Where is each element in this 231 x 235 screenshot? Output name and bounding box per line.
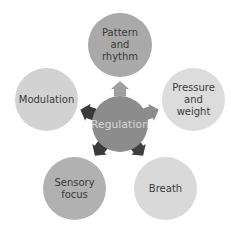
regulation-diagram: Pattern and rhythm Pressure and weight B… — [0, 0, 231, 235]
node-regulation-center: Regulation — [92, 96, 148, 152]
arrow-to-pattern-icon — [111, 81, 129, 96]
center-label: Regulation — [91, 118, 149, 130]
